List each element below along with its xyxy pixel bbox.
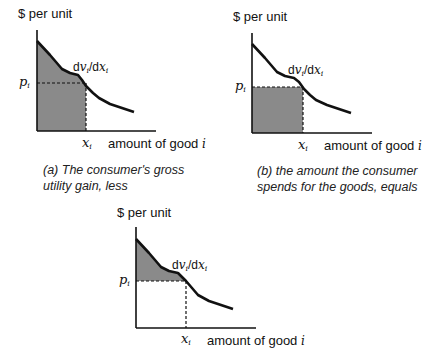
y-axis-label: $ per unit	[233, 9, 287, 24]
curve-label: dvi/dxi	[73, 60, 108, 75]
price-label: pi	[19, 74, 30, 90]
shaded-area-expenditure	[252, 87, 303, 133]
panel-b: $ per unit pi xi amount of good i dvi/dx…	[216, 0, 433, 200]
panel-a: $ per unit pi xi amount of good i dvi/dx…	[0, 0, 216, 180]
x-axis-label: amount of good i	[207, 333, 305, 348]
x-axis-label: amount of good i	[324, 138, 422, 153]
y-axis-label: $ per unit	[117, 205, 171, 220]
curve-label: dvi/dxi	[288, 63, 323, 78]
price-label: pi	[235, 78, 246, 94]
quantity-label: xi	[82, 135, 92, 151]
y-axis-label: $ per unit	[18, 6, 72, 21]
shaded-area-gross-utility	[37, 41, 86, 131]
price-label: pi	[119, 272, 130, 288]
curve-label: dvi/dxi	[172, 258, 207, 273]
panel-c: $ per unit pi xi amount of good i dvi/dx…	[100, 200, 340, 361]
panel-a-graph	[0, 0, 216, 180]
caption-b: (b) the amount the consumer spends for t…	[257, 163, 418, 195]
caption-a: (a) The consumer's gross utility gain, l…	[43, 162, 184, 194]
quantity-label: xi	[181, 331, 191, 347]
quantity-label: xi	[298, 137, 308, 153]
x-axis-label: amount of good i	[108, 136, 206, 151]
